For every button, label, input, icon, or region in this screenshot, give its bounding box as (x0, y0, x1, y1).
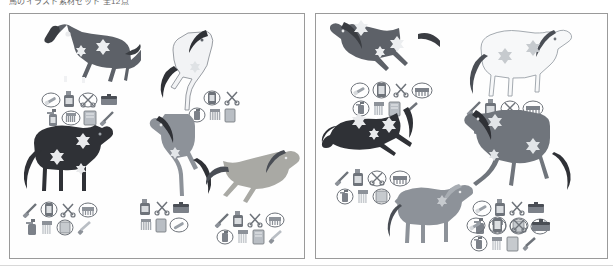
towel-icon[interactable] (252, 229, 265, 245)
horse-svg (150, 30, 236, 112)
oval-scissors-icon[interactable] (78, 92, 98, 108)
tray-row (214, 211, 304, 228)
brush-icon[interactable] (356, 189, 370, 205)
horse-svg (16, 119, 118, 199)
tray-row (26, 219, 118, 236)
file-icon[interactable] (267, 229, 283, 245)
bottle-icon[interactable] (63, 91, 76, 108)
illustration-sheet: 馬のイラスト素材セット 全12点 (0, 0, 613, 266)
horse-illustration-dark-bay-galloping (330, 16, 440, 78)
oval-brush-icon[interactable] (41, 92, 61, 108)
hoof-pick-icon[interactable] (334, 170, 350, 186)
tray-row (22, 201, 118, 218)
horse-svg (37, 21, 141, 89)
file-icon[interactable] (76, 220, 92, 236)
horse-illustration-white-trotting (456, 26, 580, 98)
oval-comb-icon[interactable] (411, 82, 433, 99)
horse-group-2[interactable] (150, 30, 240, 123)
accessory-tray-5 (214, 211, 304, 245)
bottle-icon[interactable] (352, 169, 365, 187)
scissors-icon[interactable] (393, 82, 409, 98)
grooming-box-icon[interactable] (172, 202, 190, 214)
oval-bottle-icon[interactable] (372, 81, 391, 99)
grooming-box-icon[interactable] (100, 94, 118, 106)
scissors-icon[interactable] (247, 212, 263, 228)
towel-icon[interactable] (155, 218, 167, 233)
oval-bottle-icon[interactable] (40, 201, 58, 218)
oval-brush-icon[interactable] (350, 82, 370, 99)
horse-group-5[interactable] (206, 147, 304, 245)
horse-svg (456, 26, 580, 98)
oval-brush-icon[interactable] (169, 217, 189, 233)
comb-icon[interactable] (139, 218, 153, 233)
left-panel (9, 13, 305, 259)
horse-svg (206, 147, 304, 209)
hoof-pick-icon[interactable] (214, 212, 230, 228)
scissors-icon[interactable] (154, 200, 170, 216)
tray-row (350, 81, 440, 99)
bottle-icon[interactable] (232, 211, 245, 228)
horse-illustration-palomino-galloping (206, 147, 304, 209)
tray-row (41, 91, 141, 108)
horse-svg (320, 107, 434, 167)
scissors-icon[interactable] (60, 202, 76, 218)
horse-illustration-grey-standing (382, 182, 551, 244)
horse-illustration-dark-bay-trotting (37, 21, 141, 89)
oval-spray-icon[interactable] (216, 229, 234, 245)
hoof-pick-icon[interactable] (22, 202, 38, 218)
right-panel (315, 13, 608, 259)
horse-svg (330, 16, 440, 78)
oval-towel-icon[interactable] (56, 219, 74, 236)
horse-group-1[interactable] (37, 21, 141, 127)
horse-illustration-white-rearing (150, 30, 240, 112)
accessory-tray-3 (22, 201, 118, 236)
oval-spray-icon[interactable] (336, 188, 354, 205)
tray-row (216, 229, 304, 245)
horse-illustration-black-standing (16, 119, 118, 199)
oval-comb-icon[interactable] (78, 202, 98, 218)
page-title: 馬のイラスト素材セット 全12点 (9, 0, 129, 5)
horse-group-10[interactable] (382, 182, 551, 252)
brush-icon[interactable] (40, 220, 54, 236)
bottle-icon[interactable] (139, 199, 152, 216)
horse-svg (382, 182, 478, 244)
spray-bottle-icon[interactable] (26, 219, 38, 236)
horse-group-6[interactable] (330, 16, 440, 117)
horse-illustration-black-galloping (320, 107, 434, 167)
horse-group-3[interactable] (16, 119, 118, 236)
oval-comb-icon[interactable] (265, 212, 285, 228)
brush-icon[interactable] (236, 229, 250, 245)
